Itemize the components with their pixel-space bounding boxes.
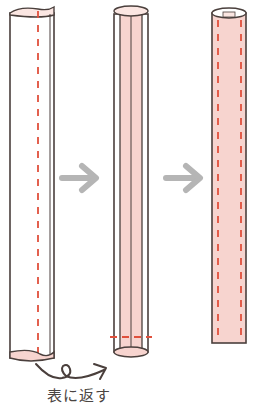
arrow-right-icon <box>166 166 200 190</box>
diagram-canvas <box>0 0 258 411</box>
step-3-finished-tube <box>212 8 246 343</box>
turn-right-side-out-caption: 表に返す <box>34 384 124 405</box>
turn-out-arrow-icon <box>36 364 106 379</box>
step-1-strip <box>10 7 54 361</box>
arrow-right-icon <box>62 166 96 190</box>
step-2-tube <box>110 6 152 357</box>
